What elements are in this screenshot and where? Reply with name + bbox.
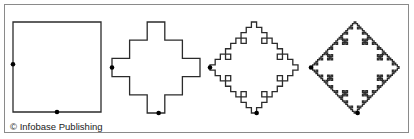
fractal-curve-level-2 <box>210 22 298 113</box>
end-point-dot <box>355 111 360 116</box>
fractal-curve-level-0 <box>13 22 101 112</box>
start-point-dot <box>208 65 213 70</box>
fractal-iterations <box>0 0 414 139</box>
end-point-dot <box>55 110 60 115</box>
end-point-dot <box>254 111 259 116</box>
fractal-curve-level-3 <box>311 22 399 113</box>
fractal-curve-level-1 <box>112 22 200 113</box>
start-point-dot <box>110 65 115 70</box>
copyright-credit: © Infobase Publishing <box>10 121 103 132</box>
end-point-dot <box>156 111 161 116</box>
start-point-dot <box>309 65 314 70</box>
start-point-dot <box>11 62 16 67</box>
